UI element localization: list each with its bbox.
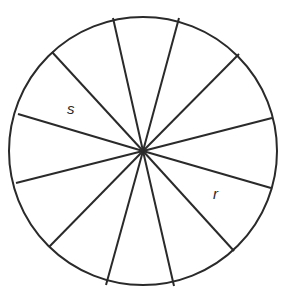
- spoke-1: [143, 18, 179, 151]
- divided-circle-diagram: s r: [0, 0, 284, 301]
- spoke-3: [143, 118, 272, 151]
- spoke-10: [18, 114, 143, 151]
- spoke-9: [16, 151, 143, 183]
- sector-spokes: [16, 18, 272, 286]
- sector-label-r: r: [213, 185, 219, 202]
- spoke-6: [143, 151, 174, 286]
- spoke-2: [143, 54, 239, 151]
- spoke-0: [113, 18, 143, 151]
- spoke-5: [143, 151, 234, 251]
- spoke-11: [52, 52, 143, 151]
- spoke-4: [143, 151, 271, 188]
- sector-label-s: s: [67, 100, 75, 117]
